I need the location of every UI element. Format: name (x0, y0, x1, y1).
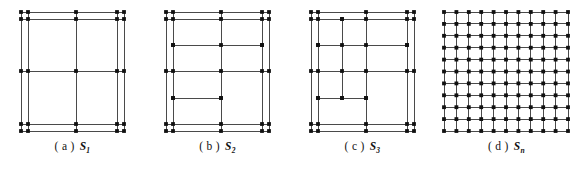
grid-node (492, 105, 496, 109)
grid-node (566, 46, 570, 50)
grid-node (364, 17, 368, 21)
caption-symbol-a: S1 (80, 140, 91, 152)
grid-node (554, 82, 558, 86)
grid-node (122, 129, 126, 133)
grid-node (122, 10, 126, 14)
lattice-diagram-b (145, 0, 290, 142)
grid-node (504, 46, 508, 50)
grid-node (19, 129, 23, 133)
grid-node (115, 69, 119, 73)
grid-node (412, 122, 416, 126)
grid-node (529, 58, 533, 62)
grid-node (364, 43, 368, 47)
grid-node (442, 105, 446, 109)
grid-node (74, 69, 78, 73)
grid-node (442, 46, 446, 50)
grid-node (364, 122, 368, 126)
grid-node (455, 93, 459, 97)
grid-node (541, 129, 545, 133)
grid-node (504, 34, 508, 38)
grid-node (412, 10, 416, 14)
grid-node (309, 69, 313, 73)
grid-node (529, 129, 533, 133)
grid-node (517, 70, 521, 74)
grid-node (455, 70, 459, 74)
grid-node (541, 117, 545, 121)
grid-node (442, 10, 446, 14)
grid-node (171, 96, 175, 100)
grid-node (442, 82, 446, 86)
grid-node (219, 17, 223, 21)
grid-node (467, 70, 471, 74)
grid-node (529, 105, 533, 109)
grid-node (554, 22, 558, 26)
caption-label-b: ( b ) (199, 140, 220, 152)
grid-node (455, 117, 459, 121)
grid-node (364, 69, 368, 73)
grid-node (541, 10, 545, 14)
grid-node (309, 129, 313, 133)
panel-caption-c: ( c )S3 (290, 140, 435, 155)
grid-node (529, 34, 533, 38)
lines-group (166, 12, 269, 131)
grid-node (566, 105, 570, 109)
grid-node (122, 17, 126, 21)
grid-node (517, 129, 521, 133)
grid-node (541, 82, 545, 86)
grid-node (19, 122, 23, 126)
grid-node (316, 10, 320, 14)
grid-node (529, 70, 533, 74)
grid-node (267, 17, 271, 21)
grid-node (554, 10, 558, 14)
nodes-group (309, 10, 416, 133)
grid-node (455, 129, 459, 133)
grid-node (541, 22, 545, 26)
grid-node (517, 10, 521, 14)
grid-node (340, 69, 344, 73)
grid-node (467, 22, 471, 26)
grid-node (541, 105, 545, 109)
grid-node (517, 34, 521, 38)
grid-node (529, 117, 533, 121)
grid-node (492, 34, 496, 38)
lines-group (311, 12, 414, 131)
grid-node (171, 69, 175, 73)
grid-node (309, 122, 313, 126)
caption-label-c: ( c ) (345, 140, 365, 152)
grid-node (74, 10, 78, 14)
grid-node (504, 70, 508, 74)
grid-node (566, 93, 570, 97)
grid-node (364, 10, 368, 14)
grid-node (340, 43, 344, 47)
grid-node (566, 22, 570, 26)
grid-node (504, 82, 508, 86)
grid-node (566, 34, 570, 38)
nodes-group (164, 10, 271, 133)
grid-node (412, 129, 416, 133)
nodes-group (19, 10, 126, 133)
grid-node (74, 17, 78, 21)
panel-caption-b: ( b )S2 (145, 140, 290, 155)
grid-node (529, 46, 533, 50)
grid-node (566, 10, 570, 14)
grid-node (442, 22, 446, 26)
grid-node (529, 93, 533, 97)
grid-node (517, 93, 521, 97)
grid-node (467, 93, 471, 97)
grid-node (316, 17, 320, 21)
grid-node (566, 82, 570, 86)
grid-node (164, 129, 168, 133)
grid-node (529, 10, 533, 14)
grid-node (260, 43, 264, 47)
caption-symbol-c: S3 (370, 140, 381, 152)
grid-node (164, 10, 168, 14)
grid-node (316, 43, 320, 47)
grid-node (554, 34, 558, 38)
grid-node (566, 58, 570, 62)
grid-node (19, 69, 23, 73)
grid-node (492, 58, 496, 62)
grid-node (504, 22, 508, 26)
grid-node (442, 70, 446, 74)
grid-node (316, 69, 320, 73)
grid-node (122, 122, 126, 126)
